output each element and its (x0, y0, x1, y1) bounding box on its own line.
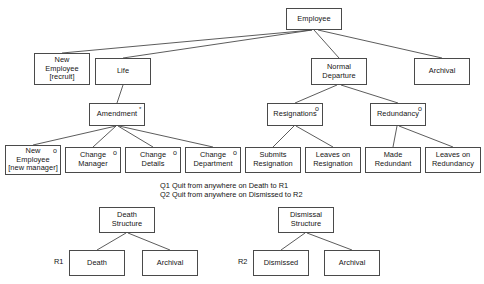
node-label-leaves-on-resignation: Leaves on Resignation (307, 151, 359, 168)
node-label-dismissal-structure: Dismissal Structure (280, 211, 332, 228)
node-label-submits-resignation: Submits Resignation (247, 151, 299, 168)
node-resignations[interactable]: Resignationso (267, 103, 323, 126)
node-label-amendment: Amendment (91, 110, 143, 119)
node-new-employee-recruit[interactable]: New Employee [recruit] (34, 53, 90, 85)
node-change-manager[interactable]: Change Managero (65, 147, 121, 173)
edge-employee-to-life (123, 30, 312, 58)
state-marker-asterisk-icon: * (139, 106, 141, 112)
state-marker-circle-icon: o (53, 148, 57, 154)
note-q2: Q2 Quit from anywhere on Dismissed to R2 (160, 190, 303, 199)
node-leaves-on-redundancy[interactable]: Leaves on Redundancy (425, 147, 481, 173)
node-redundancy[interactable]: Redundancyo (370, 103, 426, 126)
edge-amendment-to-change-details (118, 126, 153, 147)
node-label-change-department: Change Department (187, 151, 239, 168)
edge-dismissal-structure-to-archival-dismissal (307, 233, 352, 250)
edge-redundancy-to-leaves-on-redundancy (399, 126, 453, 147)
node-change-department[interactable]: Change Departmento (185, 147, 241, 173)
edge-dismissal-structure-to-dismissed (281, 233, 305, 250)
node-submits-resignation[interactable]: Submits Resignation (245, 147, 301, 173)
state-marker-circle-icon: o (233, 150, 237, 156)
node-label-resignations: Resignations (269, 110, 321, 119)
node-life[interactable]: Life (95, 58, 151, 85)
node-new-employee-manager[interactable]: New Employee [new manager]o (5, 145, 61, 175)
diagram-canvas: EmployeeNew Employee [recruit]LifeNormal… (0, 0, 484, 284)
state-marker-circle-icon: o (173, 150, 177, 156)
node-archival-dismissal[interactable]: Archival (324, 250, 380, 276)
node-employee[interactable]: Employee (286, 8, 342, 30)
node-leaves-on-resignation[interactable]: Leaves on Resignation (305, 147, 361, 173)
edge-death-structure-to-archival-death (128, 233, 170, 250)
state-marker-circle-icon: o (418, 106, 422, 112)
node-label-change-details: Change Details (127, 151, 179, 168)
node-change-details[interactable]: Change Detailso (125, 147, 181, 173)
edge-resignations-to-leaves-on-resignation (296, 126, 333, 147)
label-r1: R1 (54, 258, 63, 267)
node-label-new-employee-recruit: New Employee [recruit] (36, 56, 88, 82)
state-marker-circle-icon: o (315, 106, 319, 112)
node-death-structure[interactable]: Death Structure (99, 207, 155, 233)
label-r2: R2 (238, 258, 247, 267)
node-label-leaves-on-redundancy: Leaves on Redundancy (427, 151, 479, 168)
edge-amendment-to-change-manager (93, 126, 116, 147)
node-archival-top[interactable]: Archival (414, 58, 470, 85)
node-label-change-manager: Change Manager (67, 151, 119, 168)
node-label-archival-death: Archival (144, 259, 196, 268)
note-q1: Q1 Quit from anywhere on Death to R1 (160, 181, 288, 190)
node-label-made-redundant: Made Redundant (367, 151, 419, 168)
connector-lines (0, 0, 484, 284)
edge-amendment-to-change-department (119, 126, 213, 147)
edge-employee-to-archival-top (318, 30, 442, 58)
node-amendment[interactable]: Amendment* (89, 103, 145, 126)
node-label-life: Life (97, 67, 149, 76)
node-label-new-employee-manager: New Employee [new manager] (7, 147, 59, 173)
state-marker-circle-icon: o (113, 150, 117, 156)
edge-redundancy-to-made-redundant (393, 126, 397, 147)
node-label-employee: Employee (288, 15, 340, 24)
edge-resignations-to-submits-resignation (273, 126, 294, 147)
edge-normal-departure-to-redundancy (341, 85, 398, 103)
node-made-redundant[interactable]: Made Redundant (365, 147, 421, 173)
edge-employee-to-new-employee-recruit (62, 30, 312, 53)
edge-death-structure-to-death (97, 233, 126, 250)
edge-normal-departure-to-resignations (295, 85, 337, 103)
node-death[interactable]: Death (69, 250, 125, 276)
node-label-archival-dismissal: Archival (326, 259, 378, 268)
node-normal-departure[interactable]: Normal Departure (311, 58, 367, 85)
node-label-dismissed: Dismissed (255, 259, 307, 268)
edge-amendment-to-new-employee-manager (33, 126, 116, 145)
node-dismissal-structure[interactable]: Dismissal Structure (278, 207, 334, 233)
node-label-archival-top: Archival (416, 67, 468, 76)
node-dismissed[interactable]: Dismissed (253, 250, 309, 276)
node-label-normal-departure: Normal Departure (313, 63, 365, 80)
node-label-death: Death (71, 259, 123, 268)
node-archival-death[interactable]: Archival (142, 250, 198, 276)
node-label-death-structure: Death Structure (101, 211, 153, 228)
node-label-redundancy: Redundancy (372, 110, 424, 119)
edge-life-to-amendment (117, 85, 123, 103)
edge-employee-to-normal-departure (314, 30, 339, 58)
